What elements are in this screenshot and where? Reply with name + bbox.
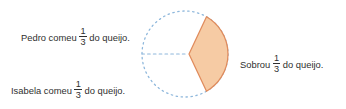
cheese-fractions-illustration: Pedro comeu 1 3 do queijo. Isabela comeu… xyxy=(0,0,346,109)
fraction-denominator: 3 xyxy=(76,91,81,100)
label-isabela: Isabela comeu 1 3 do queijo. xyxy=(11,80,125,101)
label-sobrou-before: Sobrou xyxy=(240,60,270,69)
fraction-denominator: 3 xyxy=(80,38,85,47)
fraction-numerator: 1 xyxy=(274,54,279,63)
label-isabela-before: Isabela comeu xyxy=(11,86,72,95)
label-pedro-before: Pedro comeu xyxy=(21,33,77,42)
fraction-numerator: 1 xyxy=(76,80,81,89)
label-isabela-after: do queijo. xyxy=(84,86,125,95)
fraction-one-third-sobrou: 1 3 xyxy=(273,54,281,75)
fraction-one-third-pedro: 1 3 xyxy=(79,27,87,48)
label-sobrou-after: do queijo. xyxy=(283,60,324,69)
label-pedro: Pedro comeu 1 3 do queijo. xyxy=(21,27,130,48)
label-pedro-after: do queijo. xyxy=(89,33,130,42)
label-sobrou: Sobrou 1 3 do queijo. xyxy=(240,54,323,75)
fraction-one-third-isabela: 1 3 xyxy=(74,80,82,101)
highlighted-third-sector xyxy=(189,17,228,91)
fraction-denominator: 3 xyxy=(274,65,279,74)
fraction-numerator: 1 xyxy=(80,27,85,36)
